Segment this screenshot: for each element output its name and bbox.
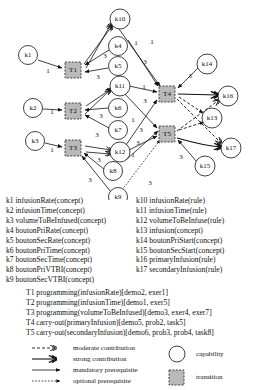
transition-legend: T1 programming(infusionRate)[demo2, exer… — [0, 288, 257, 338]
svg-text:mandatory prerequisite: mandatory prerequisite — [73, 366, 138, 374]
svg-text:k2: k2 — [30, 104, 38, 112]
transition-legend-item: T4 carry-out(primaryInfusion)[demo5, pro… — [0, 318, 257, 328]
svg-text:T4: T4 — [163, 90, 171, 98]
svg-text:strong contribution: strong contribution — [73, 355, 127, 363]
capability-node: k8 — [104, 162, 123, 181]
edge-weight: 1 — [134, 39, 138, 47]
capability-node: k16 — [218, 86, 238, 106]
edge-weight: 3 — [179, 153, 183, 161]
edge-weight: 1 — [131, 116, 135, 124]
transition-legend-item: T3 programming(volumeToBeInfused)[demo3,… — [0, 308, 257, 318]
edge-weight: 1 — [50, 146, 54, 154]
svg-text:k5: k5 — [115, 62, 123, 70]
symbol-legend: moderate contribution strong contributio… — [0, 342, 257, 388]
edge-weight: 3 — [95, 131, 99, 139]
svg-text:k1: k1 — [25, 51, 33, 59]
capability-node: k4 — [109, 37, 128, 56]
capability-node: k3 — [26, 132, 45, 151]
svg-text:k17: k17 — [226, 144, 237, 152]
svg-text:transition: transition — [196, 373, 223, 381]
capability-legend-item: k10 infusionRate(rule) — [136, 196, 224, 206]
capability-legend-item: k6 boutonPriTime(concept) — [6, 246, 106, 256]
capability-legend-item: k12 volumeToBeInfuse(rule) — [136, 216, 224, 226]
svg-text:k7: k7 — [115, 126, 123, 134]
transition-legend-item: T5 carry-out(secondaryInfusion)[demo6, p… — [0, 328, 257, 338]
svg-text:k3: k3 — [32, 137, 40, 145]
transition-node: T3 — [65, 140, 81, 156]
legend-transition: transition — [169, 370, 223, 385]
svg-text:k4: k4 — [115, 42, 123, 50]
legend-strong-contribution: strong contribution — [32, 355, 127, 363]
capability-node: k17 — [221, 138, 241, 158]
edge-weight: 1 — [131, 151, 135, 159]
capability-node: k10 — [110, 9, 130, 29]
capability-legend-item: k9 boutonSecVTBI(concept) — [6, 275, 106, 285]
edge-weight: 1 — [50, 108, 54, 116]
edge-weight: 3 — [103, 52, 107, 60]
svg-text:k8: k8 — [110, 167, 118, 175]
capability-node: k5 — [109, 57, 128, 76]
svg-text:k12: k12 — [115, 148, 126, 156]
transition-node: T4 — [159, 86, 175, 102]
legend-capability: capability — [169, 346, 224, 362]
svg-text:k10: k10 — [115, 15, 126, 23]
legend-moderate-contribution: moderate contribution — [32, 344, 136, 352]
legend-mandatory-prerequisite: mandatory prerequisite — [32, 366, 138, 374]
capability-legend-right: k10 infusionRate(rule)k11 infusionTime(r… — [136, 196, 224, 275]
edge-weight: 1 — [46, 67, 50, 75]
edge-weight: 3 — [188, 72, 192, 80]
capability-legend-item: k17 secondaryInfusion(rule) — [136, 265, 224, 275]
capability-node: k6 — [109, 99, 128, 118]
capability-node: k2 — [24, 99, 43, 118]
capability-legend-item: k2 infusionTime(concept) — [6, 206, 106, 216]
legend-optional-prerequisite: optional prerequisite — [32, 377, 131, 385]
capability-node: k1 — [19, 46, 38, 65]
capability-legend-item: k3 volumeToBeInfused(concept) — [6, 216, 106, 226]
svg-text:T1: T1 — [69, 66, 77, 74]
knowledge-graph: k1 k2 k3 k4 k5 k6 k7 k8 k9 k10 k11 k12 k… — [0, 0, 257, 200]
svg-text:k16: k16 — [223, 92, 234, 100]
edge-weight: 3 — [136, 139, 140, 147]
capability-legend: k1 infusionRate(concept)k2 infusionTime(… — [0, 196, 257, 288]
edge-weight: 1 — [142, 83, 146, 91]
edge-weight: 3 — [143, 58, 147, 66]
capability-legend-item: k15 boutonSecStart(concept) — [136, 246, 224, 256]
capability-legend-item: k16 primaryInfusion(rule) — [136, 255, 224, 265]
capability-node: k14 — [197, 54, 217, 74]
transition-legend-item: T2 programming(infusionTime)[demo1, exer… — [0, 298, 257, 308]
edge-weight: 1 — [150, 38, 154, 46]
capability-legend-item: k1 infusionRate(concept) — [6, 196, 106, 206]
capability-legend-item: k14 boutonPriStart(concept) — [136, 236, 224, 246]
capability-legend-item: k11 infusionTime(rule) — [136, 206, 224, 216]
capability-nodes: k1 k2 k3 k4 k5 k6 k7 k8 k9 k10 k11 k12 k… — [19, 9, 242, 200]
svg-text:k14: k14 — [202, 60, 213, 68]
edge-weight: 3 — [97, 156, 101, 164]
capability-legend-item: k4 boutonPriRate(concept) — [6, 226, 106, 236]
capability-node: k13 — [202, 108, 222, 128]
transition-node: T1 — [65, 62, 81, 78]
capability-legend-item: k7 boutonSecTime(concept) — [6, 255, 106, 265]
svg-text:k13: k13 — [207, 114, 218, 122]
transition-node: T5 — [159, 126, 175, 142]
figure-root: k1 k2 k3 k4 k5 k6 k7 k8 k9 k10 k11 k12 k… — [0, 0, 257, 390]
svg-text:T3: T3 — [69, 144, 77, 152]
svg-text:moderate contribution: moderate contribution — [73, 344, 136, 352]
capability-node: k11 — [110, 76, 130, 96]
edge-weight: 3 — [148, 179, 152, 187]
svg-text:T5: T5 — [163, 130, 171, 138]
svg-text:k11: k11 — [115, 82, 126, 90]
transition-legend-item: T1 programming(infusionRate)[demo2, exer… — [0, 288, 257, 298]
svg-text:k15: k15 — [200, 162, 211, 170]
capability-node: k12 — [110, 142, 130, 162]
edge-weight: 3 — [96, 73, 100, 81]
svg-text:optional prerequisite: optional prerequisite — [73, 377, 131, 385]
edge-weight: 3 — [139, 126, 143, 134]
capability-node: k15 — [195, 156, 215, 176]
capability-legend-item: k5 boutonSecRate(concept) — [6, 236, 106, 246]
capability-node: k7 — [109, 121, 128, 140]
transition-node: T2 — [65, 103, 81, 119]
svg-text:capability: capability — [196, 350, 224, 358]
svg-text:k6: k6 — [115, 104, 123, 112]
capability-legend-item: k13 infusion(concept) — [136, 226, 224, 236]
edge-weight: 3 — [99, 112, 103, 120]
